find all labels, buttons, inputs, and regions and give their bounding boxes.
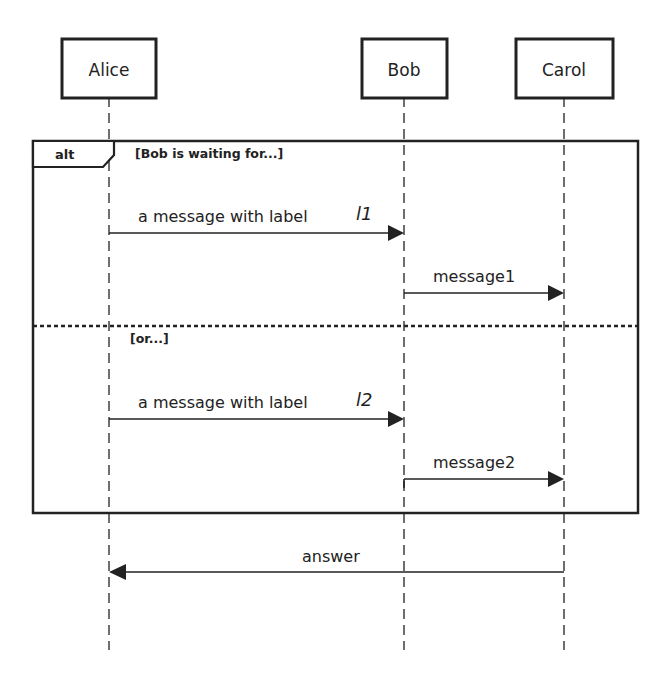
arrowhead-icon (548, 471, 564, 487)
message-text: a message with label (138, 393, 308, 412)
actor-bob[interactable]: Bob (362, 39, 447, 98)
alt-fragment: alt [Bob is waiting for...] [or...] (33, 141, 638, 513)
guard-condition-2: [or...] (130, 331, 169, 346)
sequence-diagram: Alice Bob Carol alt [Bob is waiting for.… (0, 0, 670, 675)
guard-condition-1: [Bob is waiting for...] (135, 146, 283, 161)
message-text: answer (302, 547, 360, 566)
actor-name: Carol (542, 60, 586, 80)
message-bob-to-carol-1[interactable]: message1 (404, 267, 564, 301)
message-text: message1 (433, 267, 515, 286)
actor-alice[interactable]: Alice (62, 39, 156, 98)
message-text: a message with label (138, 207, 308, 226)
actor-name: Alice (89, 60, 130, 80)
message-alice-to-bob-1[interactable]: a message with label l1 (109, 203, 404, 241)
actor-name: Bob (388, 60, 421, 80)
arrowhead-icon (109, 564, 126, 580)
arrowhead-icon (548, 285, 564, 301)
message-bob-to-carol-2[interactable]: message2 (404, 453, 564, 488)
arrowhead-icon (388, 411, 404, 427)
message-carol-to-alice[interactable]: answer (109, 547, 564, 580)
message-label: l2 (356, 389, 372, 410)
message-alice-to-bob-2[interactable]: a message with label l2 (109, 389, 404, 427)
message-text: message2 (433, 453, 515, 472)
fragment-operator: alt (55, 147, 74, 162)
message-label: l1 (356, 203, 372, 224)
actor-carol[interactable]: Carol (516, 39, 613, 98)
arrowhead-icon (388, 225, 404, 241)
